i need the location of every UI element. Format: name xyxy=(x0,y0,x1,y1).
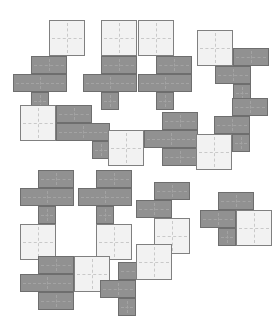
light-square-tile xyxy=(20,224,56,260)
crosshair-horizontal-icon xyxy=(59,132,107,133)
crosshair-horizontal-icon xyxy=(221,237,233,238)
dark-cell xyxy=(232,98,268,116)
dark-cell xyxy=(38,292,74,310)
crosshair-horizontal-icon xyxy=(41,179,71,180)
dark-cell xyxy=(31,56,67,74)
dark-cell xyxy=(96,206,114,224)
crosshair-horizontal-icon xyxy=(239,228,269,229)
crosshair-horizontal-icon xyxy=(34,65,64,66)
crosshair-horizontal-icon xyxy=(41,215,53,216)
dark-cell xyxy=(38,206,56,224)
crosshair-horizontal-icon xyxy=(41,265,71,266)
dark-cell xyxy=(214,116,250,134)
light-square-tile xyxy=(108,130,144,166)
dark-cell xyxy=(96,170,132,188)
crosshair-horizontal-icon xyxy=(147,139,195,140)
dark-cell xyxy=(154,182,190,200)
crosshair-horizontal-icon xyxy=(81,197,129,198)
crosshair-horizontal-icon xyxy=(236,93,248,94)
dark-cell xyxy=(156,92,174,110)
dark-cell xyxy=(78,188,132,206)
crosshair-horizontal-icon xyxy=(111,148,141,149)
dark-cell xyxy=(138,74,192,92)
crosshair-horizontal-icon xyxy=(34,101,46,102)
light-square-tile xyxy=(101,20,137,56)
crosshair-horizontal-icon xyxy=(16,83,64,84)
dark-cell xyxy=(218,228,236,246)
crosshair-horizontal-icon xyxy=(221,201,251,202)
dark-cell xyxy=(218,192,254,210)
crosshair-horizontal-icon xyxy=(104,65,134,66)
dark-cell xyxy=(162,148,198,166)
dark-cell xyxy=(215,66,251,84)
dark-cell xyxy=(38,256,74,274)
crosshair-horizontal-icon xyxy=(77,274,107,275)
crosshair-horizontal-icon xyxy=(99,242,129,243)
crosshair-horizontal-icon xyxy=(86,83,134,84)
crosshair-horizontal-icon xyxy=(236,57,266,58)
crosshair-horizontal-icon xyxy=(139,262,169,263)
dark-cell xyxy=(233,48,269,66)
crosshair-horizontal-icon xyxy=(199,152,229,153)
crosshair-horizontal-icon xyxy=(52,38,82,39)
crosshair-horizontal-icon xyxy=(203,219,233,220)
crosshair-horizontal-icon xyxy=(103,289,133,290)
crosshair-horizontal-icon xyxy=(23,242,53,243)
dark-cell xyxy=(83,74,137,92)
dark-cell xyxy=(232,134,250,152)
crosshair-horizontal-icon xyxy=(104,38,134,39)
crosshair-horizontal-icon xyxy=(218,75,248,76)
crosshair-horizontal-icon xyxy=(157,191,187,192)
crosshair-horizontal-icon xyxy=(159,65,189,66)
crosshair-horizontal-icon xyxy=(217,125,247,126)
crosshair-horizontal-icon xyxy=(95,150,107,151)
dark-cell xyxy=(38,170,74,188)
light-square-tile xyxy=(49,20,85,56)
crosshair-horizontal-icon xyxy=(141,83,189,84)
dark-cell xyxy=(144,130,198,148)
crosshair-horizontal-icon xyxy=(99,215,111,216)
crosshair-horizontal-icon xyxy=(159,101,171,102)
crosshair-horizontal-icon xyxy=(235,107,265,108)
crosshair-horizontal-icon xyxy=(157,236,187,237)
dark-cell xyxy=(162,112,198,130)
dark-cell xyxy=(118,298,136,316)
dark-cell xyxy=(100,280,136,298)
crosshair-horizontal-icon xyxy=(41,301,71,302)
light-square-tile xyxy=(236,210,272,246)
dark-cell xyxy=(56,123,110,141)
light-square-tile xyxy=(96,224,132,260)
dark-cell xyxy=(136,200,172,218)
crosshair-horizontal-icon xyxy=(121,307,133,308)
crosshair-horizontal-icon xyxy=(165,157,195,158)
light-square-tile xyxy=(196,134,232,170)
crosshair-horizontal-icon xyxy=(139,209,169,210)
dark-cell xyxy=(200,210,236,228)
crosshair-horizontal-icon xyxy=(23,283,71,284)
dark-cell xyxy=(101,92,119,110)
dark-cell xyxy=(20,274,74,292)
crosshair-horizontal-icon xyxy=(200,48,230,49)
light-square-tile xyxy=(20,105,56,141)
crosshair-horizontal-icon xyxy=(104,101,116,102)
light-square-tile xyxy=(136,244,172,280)
dark-cell xyxy=(13,74,67,92)
light-square-tile xyxy=(197,30,233,66)
dark-cell xyxy=(56,105,92,123)
light-square-tile xyxy=(138,20,174,56)
crosshair-horizontal-icon xyxy=(165,121,195,122)
crosshair-horizontal-icon xyxy=(99,179,129,180)
crosshair-horizontal-icon xyxy=(141,38,171,39)
crosshair-horizontal-icon xyxy=(59,114,89,115)
crosshair-horizontal-icon xyxy=(23,197,71,198)
dark-cell xyxy=(156,56,192,74)
dark-cell xyxy=(101,56,137,74)
dark-cell xyxy=(20,188,74,206)
crosshair-horizontal-icon xyxy=(235,143,247,144)
crosshair-horizontal-icon xyxy=(23,123,53,124)
